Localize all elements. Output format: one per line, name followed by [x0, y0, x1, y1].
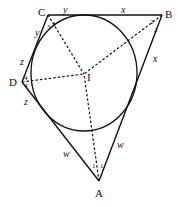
segment-label-left-upper: y	[34, 27, 40, 38]
angle-label-C1: 3	[47, 23, 51, 31]
segment-label-left-middle-upper: z	[19, 56, 24, 67]
side-BA	[99, 15, 162, 181]
angle-label-B1: 2	[150, 18, 154, 26]
angle-label-C2: 3	[52, 20, 56, 28]
angle-label-A2: 1	[100, 162, 104, 170]
segment-label-top-left: y	[62, 4, 68, 15]
vertex-label-C: C	[38, 6, 45, 18]
tangential-quadrilateral-diagram: C B D A I y x x w w z z y 3 3 2 2 4 4 1 …	[0, 0, 178, 207]
segment-label-top-right: x	[120, 4, 126, 15]
side-DC	[22, 15, 48, 82]
segment-label-left-lower: w	[63, 148, 70, 159]
vertex-label-B: B	[165, 8, 172, 20]
angle-label-B2: 2	[154, 26, 158, 34]
vertex-label-D: D	[9, 76, 17, 88]
vertex-label-A: A	[95, 187, 103, 199]
angle-label-D1: 4	[24, 74, 28, 82]
segment-label-left-middle-lower: z	[23, 96, 28, 107]
angle-label-A1: 1	[92, 162, 96, 170]
segment-label-right-upper: x	[152, 53, 158, 64]
center-label-I: I	[87, 71, 91, 83]
angle-label-D2: 4	[24, 82, 28, 90]
segment-label-right-lower: w	[117, 139, 124, 150]
